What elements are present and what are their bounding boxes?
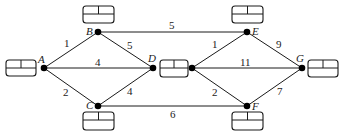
edge-B-D bbox=[98, 32, 153, 68]
label-F: F bbox=[251, 100, 259, 112]
weight-D-G: 11 bbox=[240, 56, 251, 68]
weight-D-E: 1 bbox=[212, 38, 218, 50]
node-D-out bbox=[189, 65, 196, 72]
weight-E-G: 9 bbox=[276, 38, 282, 50]
label-G: G bbox=[296, 52, 304, 64]
label-B: B bbox=[86, 25, 93, 37]
edge-D-E bbox=[192, 32, 247, 68]
weight-A-B: 1 bbox=[64, 37, 70, 49]
label-D: D bbox=[147, 52, 156, 64]
network-diagram: 1 4 2 5 5 4 6 1 11 2 9 7 bbox=[0, 0, 343, 140]
label-C: C bbox=[86, 99, 94, 111]
node-G bbox=[299, 65, 306, 72]
box-A bbox=[6, 60, 36, 76]
node-C bbox=[95, 103, 102, 110]
label-A: A bbox=[37, 53, 45, 65]
box-F bbox=[232, 112, 263, 130]
node-F bbox=[244, 103, 251, 110]
edge-D-F bbox=[192, 68, 247, 106]
weight-B-E: 5 bbox=[169, 19, 175, 31]
box-D bbox=[160, 60, 188, 77]
weight-B-D: 5 bbox=[127, 39, 133, 51]
weight-C-F: 6 bbox=[170, 108, 176, 120]
box-G bbox=[308, 60, 338, 77]
edge-C-D bbox=[98, 68, 153, 106]
node-E bbox=[244, 29, 251, 36]
weight-F-G: 7 bbox=[277, 85, 283, 97]
node-B bbox=[95, 29, 102, 36]
edge-E-G bbox=[247, 32, 302, 68]
box-B bbox=[83, 6, 114, 23]
weight-C-D: 4 bbox=[127, 85, 133, 97]
node-A bbox=[41, 65, 48, 72]
weight-A-D: 4 bbox=[95, 56, 101, 68]
weight-A-C: 2 bbox=[63, 86, 69, 98]
box-E bbox=[232, 6, 263, 23]
edge-A-B bbox=[44, 32, 98, 68]
box-C bbox=[83, 112, 114, 130]
weight-D-F: 2 bbox=[212, 86, 218, 98]
label-E: E bbox=[251, 25, 259, 37]
node-D bbox=[150, 65, 157, 72]
